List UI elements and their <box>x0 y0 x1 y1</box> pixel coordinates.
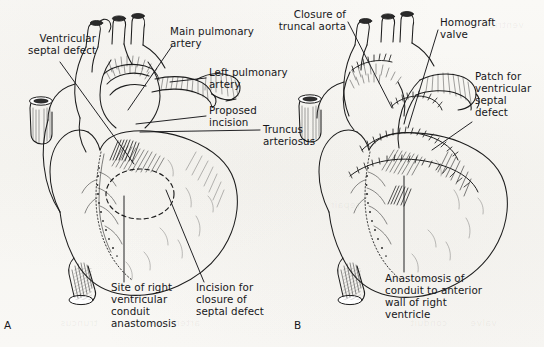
leader-truncus-arteriosus <box>140 130 260 132</box>
label-ventricular-septal-defect: Ventricular septal defect <box>10 32 96 56</box>
proposed-anastomosis-outline <box>106 169 174 219</box>
label-site-of-right-ventricular-conduit-anastomosis: Site of right ventricular conduit anasto… <box>111 281 193 329</box>
leader-main-pulmonary-artery <box>128 46 172 110</box>
panel-a-heart <box>30 14 241 305</box>
leader-closure-truncal-aorta <box>348 22 392 108</box>
leader-proposed-incision <box>136 116 206 124</box>
label-truncus-arteriosus: Truncus arteriosus <box>263 123 333 147</box>
label-anastomosis-of-conduit: Anastomosis of conduit to anterior wall … <box>385 272 505 320</box>
label-left-pulmonary-artery: Left pulmonary artery <box>209 66 305 90</box>
medical-illustration-figure: truncus arteriosus conduit valve repair … <box>0 0 544 347</box>
leader-ventricular-septal-defect <box>60 62 134 164</box>
label-patch-for-ventricular-septal-defect: Patch for ventricular septal defect <box>475 70 543 118</box>
label-homograft-valve: Homograft valve <box>440 16 518 40</box>
leader-incision-closure-septal-defect <box>166 190 204 282</box>
label-main-pulmonary-artery: Main pulmonary artery <box>170 25 270 49</box>
panel-letter-b: B <box>294 319 301 331</box>
panel-b-heart <box>299 12 508 305</box>
panel-letter-a: A <box>4 319 11 331</box>
label-incision-for-closure-of-septal-defect: Incision for closure of septal defect <box>196 281 278 317</box>
label-closure-of-truncal-aorta: Closure of truncal aorta <box>272 8 346 32</box>
leader-homograft-valve <box>408 30 438 128</box>
